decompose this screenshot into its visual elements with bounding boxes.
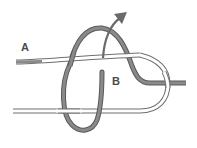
label-a: A [21, 41, 29, 53]
knot-diagram: A B [0, 0, 197, 148]
knot-illustration [0, 0, 197, 148]
label-b: B [112, 75, 120, 87]
gray-rope-lower-loop [63, 64, 102, 130]
white-rope-right-loop [164, 72, 168, 88]
white-rope-top [16, 55, 140, 62]
rope-end-a-tip [16, 62, 42, 63]
